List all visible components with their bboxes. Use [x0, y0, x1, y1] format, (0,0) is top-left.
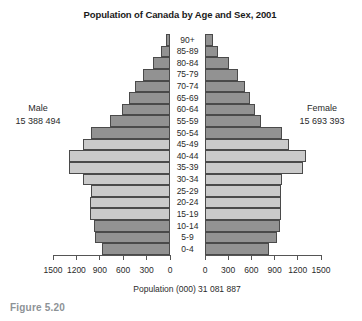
- age-group-label: 75-79: [170, 69, 205, 81]
- male-bar-cell: [53, 232, 170, 244]
- female-bar-10-14: [205, 220, 280, 232]
- male-bar-cell: [53, 150, 170, 162]
- x-axis-right: [205, 255, 321, 261]
- male-bar-cell: [53, 220, 170, 232]
- age-group-label: 35-39: [170, 162, 205, 174]
- male-bar-20-24: [90, 197, 170, 209]
- male-bar-cell: [53, 127, 170, 139]
- male-bar-50-54: [91, 127, 170, 139]
- female-bar-5-9: [205, 232, 277, 244]
- pyramid-rows: 90+85-8980-8475-7970-7465-6960-6455-5950…: [53, 34, 321, 255]
- x-axis-line-left: [53, 255, 170, 256]
- axis-tick-label: 0: [168, 265, 173, 275]
- age-group-label: 55-59: [170, 115, 205, 127]
- female-bar-75-79: [205, 69, 238, 81]
- female-bar-0-4: [205, 243, 269, 255]
- female-bar-cell: [205, 127, 321, 139]
- male-bar-cell: [53, 197, 170, 209]
- age-group-label: 20-24: [170, 197, 205, 209]
- female-bar-50-54: [205, 127, 282, 139]
- male-bar-80-84: [153, 57, 170, 69]
- male-bar-25-29: [91, 185, 170, 197]
- female-bar-90+: [205, 34, 213, 46]
- male-label: Male: [7, 102, 69, 115]
- axis-tick-label: 900: [268, 265, 282, 275]
- pyramid-row: 70-74: [53, 81, 321, 93]
- axis-tick: [251, 255, 252, 260]
- male-bar-5-9: [95, 232, 170, 244]
- female-bar-35-39: [205, 162, 303, 174]
- female-bar-30-34: [205, 174, 282, 186]
- age-group-label: 10-14: [170, 220, 205, 232]
- male-bar-40-44: [69, 150, 170, 162]
- male-total: 15 388 494: [7, 115, 69, 128]
- female-bar-25-29: [205, 185, 281, 197]
- female-bar-cell: [205, 81, 321, 93]
- axis-tick-label: 300: [140, 265, 154, 275]
- pyramid-row: 30-34: [53, 174, 321, 186]
- male-bar-35-39: [69, 162, 170, 174]
- axis-tick-label: 300: [221, 265, 235, 275]
- age-group-label: 90+: [170, 34, 205, 46]
- age-group-label: 50-54: [170, 127, 205, 139]
- female-bar-cell: [205, 220, 321, 232]
- axis-tick-label: 0: [203, 265, 208, 275]
- male-bar-cell: [53, 162, 170, 174]
- male-bar-55-59: [110, 115, 170, 127]
- male-bar-65-69: [129, 92, 170, 104]
- age-group-label: 15-19: [170, 208, 205, 220]
- axis-tick: [297, 255, 298, 260]
- male-bar-cell: [53, 208, 170, 220]
- x-tick-labels-right: 030060090012001500: [205, 265, 321, 275]
- age-group-label: 70-74: [170, 81, 205, 93]
- age-group-label: 30-34: [170, 174, 205, 186]
- axis-tick-label: 1500: [44, 265, 63, 275]
- male-bar-60-64: [122, 104, 170, 116]
- axis-tick: [205, 255, 206, 260]
- female-bar-45-49: [205, 139, 289, 151]
- female-bar-cell: [205, 243, 321, 255]
- axis-tick: [123, 255, 124, 260]
- axis-tick-label: 1200: [288, 265, 307, 275]
- axis-tick-label: 1200: [67, 265, 86, 275]
- axis-tick: [99, 255, 100, 260]
- axis-tick-label: 600: [116, 265, 130, 275]
- female-bar-20-24: [205, 197, 281, 209]
- pyramid-row: 0-4: [53, 243, 321, 255]
- axis-tick: [53, 255, 54, 260]
- axis-tick: [274, 255, 275, 260]
- pyramid-row: 25-29: [53, 185, 321, 197]
- age-group-label: 5-9: [170, 232, 205, 244]
- female-bar-cell: [205, 174, 321, 186]
- male-bar-15-19: [90, 208, 170, 220]
- male-bar-30-34: [83, 174, 170, 186]
- female-bar-40-44: [205, 150, 306, 162]
- axis-tick: [228, 255, 229, 260]
- male-bar-75-79: [143, 69, 170, 81]
- female-bar-cell: [205, 139, 321, 151]
- male-bar-cell: [53, 69, 170, 81]
- pyramid-row: 20-24: [53, 197, 321, 209]
- female-bar-cell: [205, 185, 321, 197]
- male-bar-cell: [53, 104, 170, 116]
- female-bar-70-74: [205, 81, 245, 93]
- pyramid-row: 80-84: [53, 57, 321, 69]
- male-bar-cell: [53, 81, 170, 93]
- pyramid-row: 50-54: [53, 127, 321, 139]
- female-bar-cell: [205, 57, 321, 69]
- axis-tick-label: 1500: [312, 265, 331, 275]
- female-bar-cell: [205, 232, 321, 244]
- male-bar-85-89: [161, 46, 170, 58]
- pyramid-row: 90+: [53, 34, 321, 46]
- x-axis-caption: Population (000) 31 081 887: [53, 284, 321, 294]
- age-group-label: 65-69: [170, 92, 205, 104]
- pyramid-row: 40-44: [53, 150, 321, 162]
- pyramid-row: 60-64: [53, 104, 321, 116]
- male-bar-cell: [53, 34, 170, 46]
- female-bar-65-69: [205, 92, 250, 104]
- age-group-label: 80-84: [170, 57, 205, 69]
- x-axis-line-right: [205, 255, 321, 256]
- pyramid-row: 65-69: [53, 92, 321, 104]
- pyramid-row: 10-14: [53, 220, 321, 232]
- pyramid-row: 35-39: [53, 162, 321, 174]
